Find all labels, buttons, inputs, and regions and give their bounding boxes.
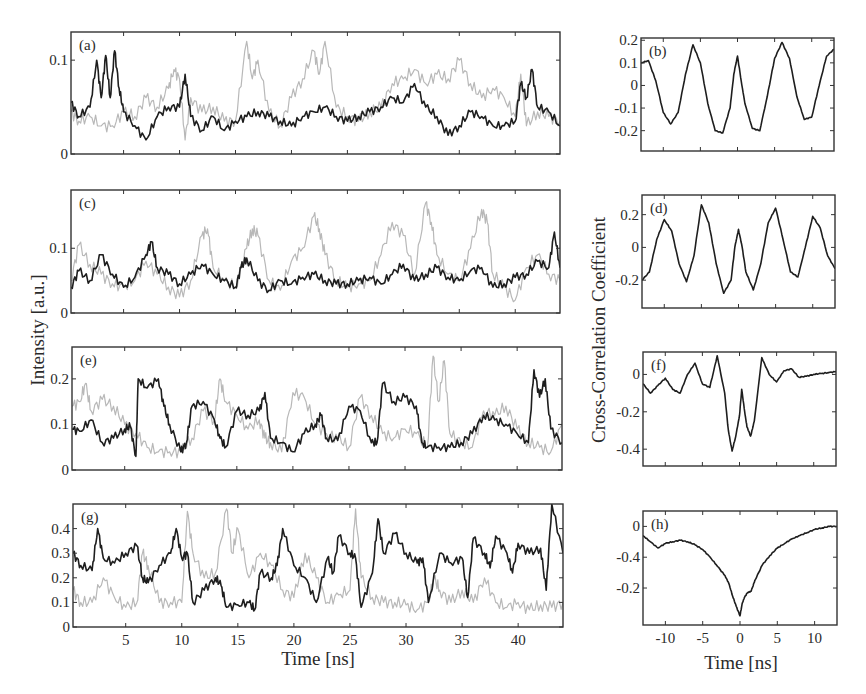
panel-e: 00.10.2(e) <box>50 347 562 478</box>
axes-frame <box>642 195 835 308</box>
y-tick-label: 0 <box>63 619 71 635</box>
y-tick-label: 0.1 <box>49 52 68 68</box>
y-tick-label: -0.2 <box>616 404 640 420</box>
x-axis-title-left: Time [ns] <box>281 648 355 669</box>
y-tick-label: 0 <box>633 518 641 534</box>
panel-label: (d) <box>650 200 668 217</box>
y-tick-label: 0 <box>61 146 69 162</box>
y-tick-label: 0.2 <box>620 207 639 223</box>
panel-label: (e) <box>80 352 97 369</box>
x-tick-label: 10 <box>174 632 189 648</box>
y-tick-label: 0.1 <box>51 594 70 610</box>
y-tick-label: 0.1 <box>49 240 68 256</box>
series-light <box>71 202 560 302</box>
panel-label: (a) <box>79 37 96 54</box>
x-tick-label: 25 <box>342 632 357 648</box>
panel-label: (h) <box>651 516 669 533</box>
x-tick-label: 5 <box>774 630 782 646</box>
y-tick-label: 0.3 <box>51 545 70 561</box>
y-tick-label: 0.4 <box>51 521 70 537</box>
y-tick-label: -0.4 <box>616 549 640 565</box>
y-tick-label: 0.2 <box>50 371 69 387</box>
series-dark <box>71 232 560 292</box>
x-tick-label: 35 <box>455 632 470 648</box>
panel-a: 00.1(a) <box>49 32 560 162</box>
axes-frame <box>71 190 560 313</box>
x-tick-label: 20 <box>286 632 301 648</box>
series-correlation <box>641 43 834 133</box>
x-tick-label: 10 <box>807 630 822 646</box>
y-tick-label: -0.4 <box>616 441 640 457</box>
figure-canvas: 00.1(a)-0.2-0.100.10.2(b)00.1(c)-0.200.2… <box>0 0 866 694</box>
x-tick-label: 5 <box>122 632 130 648</box>
panel-g: 51015202530354000.10.20.30.4(g) <box>51 504 563 648</box>
x-tick-label: 15 <box>230 632 245 648</box>
series-correlation <box>643 356 836 451</box>
y-tick-label: 0 <box>61 305 69 321</box>
panel-h: -10-50510-0.2-0.40(h) <box>616 511 837 646</box>
series-light <box>72 356 562 458</box>
y-tick-label: 0 <box>631 77 639 93</box>
panel-c: 00.1(c) <box>49 190 560 321</box>
x-axis-title-right: Time [ns] <box>704 652 778 673</box>
y-tick-label: -0.2 <box>616 580 640 596</box>
y-tick-label: 0 <box>62 462 70 478</box>
y-tick-label: 0 <box>632 239 640 255</box>
series-correlation <box>643 526 837 616</box>
y-tick-label: 0.2 <box>619 32 638 48</box>
panel-label: (b) <box>649 43 667 60</box>
y-tick-label: -0.1 <box>614 100 638 116</box>
y-tick-label: 0.1 <box>619 55 638 71</box>
series-correlation <box>642 205 835 293</box>
panels-group: 00.1(a)-0.2-0.100.10.2(b)00.1(c)-0.200.2… <box>49 32 837 648</box>
panel-label: (f) <box>651 357 666 374</box>
panel-label: (c) <box>79 195 96 212</box>
y-tick-label: -0.2 <box>614 123 638 139</box>
y-axis-title-intensity: Intensity [a.u.] <box>27 274 48 385</box>
y-tick-label: 0 <box>633 366 641 382</box>
axes-frame <box>643 511 837 625</box>
x-tick-label: 30 <box>399 632 414 648</box>
y-tick-label: 0.2 <box>51 570 70 586</box>
panel-label: (g) <box>81 509 99 526</box>
x-tick-label: -5 <box>696 630 709 646</box>
y-tick-label: -0.2 <box>615 272 639 288</box>
y-tick-label: 0.1 <box>50 416 69 432</box>
x-tick-label: -10 <box>655 630 675 646</box>
x-tick-label: 40 <box>511 632 526 648</box>
x-tick-label: 0 <box>736 630 744 646</box>
axes-frame <box>641 38 834 151</box>
y-axis-title-cross-correlation: Cross-Correlation Coefficient <box>588 216 609 443</box>
panel-b: -0.2-0.100.10.2(b) <box>614 32 834 151</box>
panel-f: -0.4-0.20(f) <box>616 352 836 466</box>
panel-d: -0.200.2(d) <box>615 195 835 308</box>
